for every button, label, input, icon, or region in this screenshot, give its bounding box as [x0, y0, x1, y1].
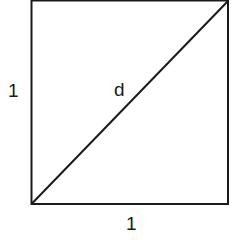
diagonal-line	[32, 1, 229, 204]
diagram-canvas: 1 1 d	[0, 0, 241, 240]
bottom-side-label: 1	[126, 213, 137, 234]
left-side-label: 1	[8, 80, 19, 101]
diagonal-label: d	[114, 79, 125, 100]
